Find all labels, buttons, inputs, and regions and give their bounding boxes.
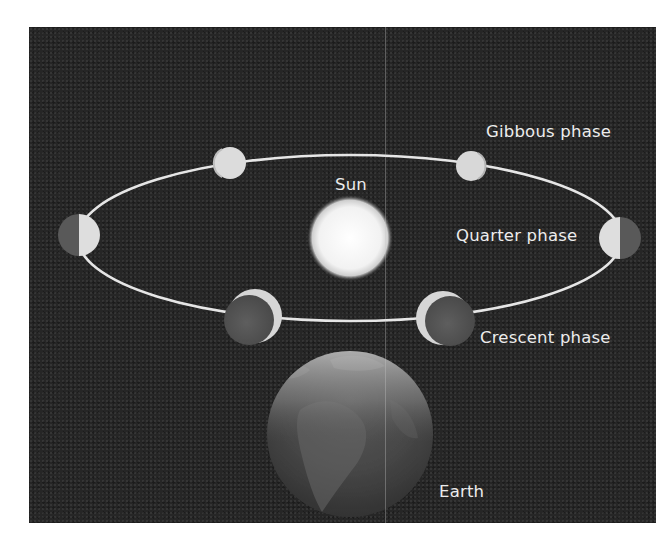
sun-icon bbox=[307, 195, 393, 281]
gibbous-moon-right-icon bbox=[456, 151, 486, 181]
moon-phase-scene bbox=[29, 27, 656, 523]
gibbous-moon-left-icon bbox=[214, 147, 246, 179]
gibbous-phase-label: Gibbous phase bbox=[486, 122, 611, 142]
image-seam bbox=[385, 27, 386, 523]
sun-label: Sun bbox=[335, 175, 367, 195]
earth-icon bbox=[267, 351, 433, 517]
quarter-phase-label: Quarter phase bbox=[456, 226, 577, 246]
crescent-moon-right-icon bbox=[416, 291, 475, 346]
crescent-phase-label: Crescent phase bbox=[480, 328, 611, 348]
diagram-panel: Sun Gibbous phase Quarter phase Crescent… bbox=[29, 27, 656, 523]
quarter-moon-left-icon bbox=[58, 214, 100, 256]
earth-label: Earth bbox=[439, 482, 484, 502]
quarter-moon-right-icon bbox=[599, 217, 641, 259]
crescent-moon-left-icon bbox=[224, 289, 282, 345]
